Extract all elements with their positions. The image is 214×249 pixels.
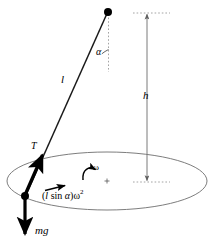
centripetal-exponent: 2	[80, 188, 84, 196]
angular-velocity-label: ω	[93, 163, 99, 172]
height-label: h	[143, 90, 149, 101]
centripetal-acceleration-label: (l sin α)ω2	[42, 190, 83, 201]
centripetal-sin: sin	[48, 190, 65, 201]
conical-pendulum-figure: α l h T ω mg (l sin α)ω2	[0, 0, 214, 249]
string-length-label: l	[61, 74, 64, 85]
angle-label: α	[96, 47, 101, 57]
tension-label: T	[31, 141, 37, 151]
diagram-canvas	[0, 0, 214, 249]
centripetal-omega: ω	[73, 190, 80, 201]
pivot-point	[104, 8, 112, 16]
angle-arc	[102, 50, 109, 54]
center-cross-icon	[105, 179, 110, 184]
weight-label: mg	[35, 225, 48, 236]
pendulum-bob	[21, 192, 29, 200]
